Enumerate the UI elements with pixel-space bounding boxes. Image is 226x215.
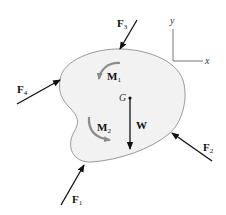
force-f4: F4 bbox=[17, 80, 60, 104]
rigid-body-shape bbox=[59, 49, 185, 162]
force-f3: F3 bbox=[117, 17, 137, 49]
x-axis-label: x bbox=[204, 55, 210, 66]
force-f2-label: F2 bbox=[203, 141, 214, 155]
force-f2: F2 bbox=[172, 133, 214, 161]
g-label: G bbox=[119, 92, 126, 103]
force-f4-label: F4 bbox=[17, 83, 28, 97]
force-f1-label: F1 bbox=[72, 193, 83, 207]
force-f1: F1 bbox=[61, 165, 84, 207]
coordinate-axes: y x bbox=[169, 15, 210, 66]
weight-label: W bbox=[136, 119, 147, 131]
y-axis-label: y bbox=[169, 15, 175, 26]
force-f3-label: F3 bbox=[117, 17, 128, 31]
free-body-diagram: y x M1 M2 G W F1 F2 bbox=[0, 0, 226, 215]
